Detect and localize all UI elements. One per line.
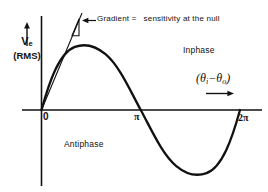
slope-triangle-icon <box>72 19 79 36</box>
sine-response-figure: Ve (RMS) Gradient =sensitivity at the nu… <box>0 0 268 192</box>
y-axis-units: (RMS) <box>6 50 48 61</box>
plot-canvas <box>0 0 268 192</box>
x-axis-label: (θi−θo) <box>196 72 230 86</box>
x-tick-label-0: 0 <box>43 112 49 123</box>
y-axis-label-symbol: V <box>21 35 28 47</box>
x-tick-label-pi: π <box>134 112 139 123</box>
left-arrow-icon <box>82 18 96 23</box>
region-label-inphase: Inphase <box>183 46 215 55</box>
gradient-annotation-value: sensitivity at the null <box>144 14 220 23</box>
y-axis-label-subscript: e <box>29 39 33 48</box>
gradient-annotation-label: Gradient = <box>97 14 137 23</box>
region-label-antiphase: Antiphase <box>64 140 104 149</box>
y-axis-label: Ve <box>10 36 44 48</box>
x-axis-label-paren-close: ) <box>226 71 230 85</box>
x-tick-label-2pi: 2π <box>238 113 248 124</box>
gradient-annotation: Gradient =sensitivity at the null <box>97 15 220 23</box>
right-arrow-icon <box>206 91 234 97</box>
